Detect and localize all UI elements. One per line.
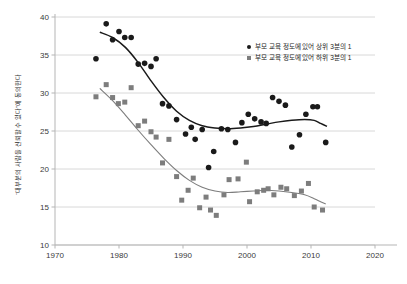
data-point (239, 120, 245, 126)
legend-label-lower-third: 부모 교육 정도에 있어 하위 3분의 1 (255, 52, 351, 63)
data-point (258, 119, 264, 125)
data-point (110, 95, 115, 100)
y-axis-tick-label: 40 (27, 13, 49, 22)
data-point (312, 205, 317, 210)
data-point (104, 82, 109, 87)
data-point (204, 195, 209, 200)
data-point (166, 103, 172, 109)
legend-item-lower-third[interactable]: 부모 교육 정도에 있어 하위 3분의 1 (247, 52, 351, 63)
data-point (93, 56, 99, 62)
data-point (206, 165, 212, 171)
data-point (244, 160, 249, 165)
data-point (261, 188, 266, 193)
data-point (208, 208, 213, 213)
data-point (227, 177, 232, 182)
data-point (183, 131, 189, 137)
data-point (219, 126, 225, 132)
data-point (186, 188, 191, 193)
data-point (93, 94, 98, 99)
x-axis-tick-label: 2010 (294, 251, 328, 260)
data-point (276, 99, 282, 105)
y-axis-tick-label: 10 (27, 241, 49, 250)
data-point (252, 116, 258, 122)
data-point (136, 123, 141, 128)
x-axis-tick-label: 2020 (358, 251, 392, 260)
data-point (116, 101, 121, 106)
data-point (160, 160, 165, 165)
data-point (160, 101, 166, 107)
data-point (211, 149, 217, 155)
data-point (197, 205, 202, 210)
data-point (148, 64, 154, 70)
data-point (199, 127, 205, 133)
y-axis-tick-label: 20 (27, 165, 49, 174)
data-point (191, 176, 196, 181)
data-point (174, 117, 180, 123)
data-point (266, 186, 271, 191)
y-axis-title: “대부분의 사람을 신뢰할 수 있다”에 동의한다 (13, 35, 22, 235)
data-point (320, 208, 325, 213)
data-point (135, 61, 141, 67)
data-point (263, 121, 269, 127)
data-point (221, 192, 226, 197)
data-point (122, 35, 128, 41)
data-point (278, 185, 283, 190)
data-point (103, 21, 109, 27)
data-point (306, 181, 311, 186)
data-point (110, 37, 116, 43)
y-axis-tick-label: 15 (27, 203, 49, 212)
data-point (270, 95, 276, 101)
data-point (303, 111, 309, 117)
data-point (284, 186, 289, 191)
data-point (271, 192, 276, 197)
data-point (315, 104, 321, 110)
x-axis-tick-label: 1970 (38, 251, 72, 260)
legend-square-marker-icon (247, 56, 251, 60)
trust-scatter-chart: “대부분의 사람을 신뢰할 수 있다”에 동의한다 10152025303540… (0, 0, 407, 284)
data-point (153, 56, 159, 62)
legend-item-upper-third[interactable]: 부모 교육 정도에 있어 상위 3분의 1 (247, 41, 351, 52)
data-point (236, 176, 241, 181)
chart-legend: 부모 교육 정도에 있어 상위 3분의 1 부모 교육 정도에 있어 하위 3분… (247, 41, 351, 63)
legend-circle-marker-icon (247, 45, 251, 49)
data-point (245, 111, 251, 117)
data-point (292, 193, 297, 198)
data-point (174, 174, 179, 179)
y-axis-tick-label: 30 (27, 89, 49, 98)
data-point (247, 199, 252, 204)
data-point (142, 119, 147, 124)
data-point (122, 100, 127, 105)
y-axis-tick-label: 25 (27, 127, 49, 136)
data-point (189, 124, 195, 130)
x-axis-tick-label: 1980 (102, 251, 136, 260)
data-point (289, 144, 295, 150)
data-point (297, 132, 303, 138)
data-point (283, 102, 289, 108)
data-point (116, 29, 122, 35)
data-point (154, 135, 159, 140)
data-point (142, 61, 148, 67)
data-point (214, 213, 219, 218)
legend-label-upper-third: 부모 교육 정도에 있어 상위 3분의 1 (255, 41, 351, 52)
x-axis-tick-label: 2000 (230, 251, 264, 260)
data-point (192, 137, 198, 143)
data-point (129, 85, 134, 90)
data-point (233, 140, 239, 146)
data-point (149, 129, 154, 134)
data-point (128, 35, 134, 41)
x-axis-tick-label: 1990 (166, 251, 200, 260)
data-point (299, 189, 304, 194)
data-point (179, 198, 184, 203)
data-point (323, 140, 329, 146)
y-axis-tick-label: 35 (27, 51, 49, 60)
data-point (166, 137, 171, 142)
data-point (255, 189, 260, 194)
data-point (225, 127, 231, 133)
